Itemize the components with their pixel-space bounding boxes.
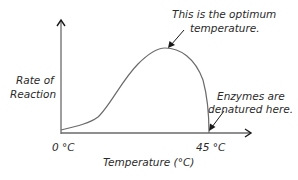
optimum-annotation-line2: temperature. [190, 22, 260, 35]
denatured-arrowhead-icon [209, 124, 216, 132]
denatured-annotation-line2: denatured here. [208, 103, 293, 116]
y-axis-label-line1: Rate of [16, 74, 54, 87]
y-axis-label-line2: Reaction [10, 88, 56, 101]
denatured-annotation-line1: Enzymes are [217, 90, 285, 103]
x-tick-start: 0 °C [52, 141, 75, 154]
optimum-pointer-line [171, 30, 184, 45]
rate-curve [61, 48, 209, 133]
optimum-annotation-line1: This is the optimum [172, 8, 276, 21]
x-tick-end: 45 °C [196, 141, 225, 154]
x-axis-label: Temperature (°C) [103, 156, 194, 169]
